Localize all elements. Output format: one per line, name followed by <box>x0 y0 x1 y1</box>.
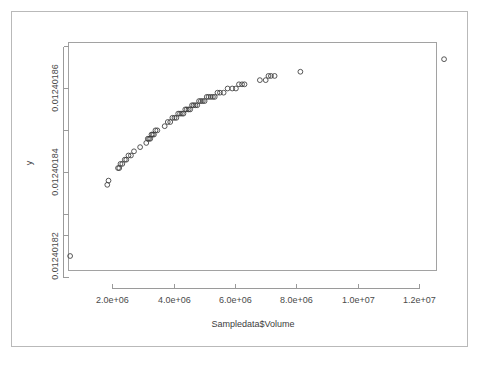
screenshot-root: 0.01240186 0.01240184 0.01240182 y 2.0e+… <box>0 0 479 365</box>
x-tick-label-1: 4.0e+06 <box>158 295 191 305</box>
y-axis-title: y <box>24 160 34 165</box>
data-point <box>138 145 143 150</box>
x-tick-label-2: 6.0e+06 <box>219 295 252 305</box>
x-tick-label-0: 2.0e+06 <box>96 295 129 305</box>
x-tick-label-5: 1.2e+07 <box>403 295 436 305</box>
y-tick-label-1: 0.01240184 <box>50 148 60 196</box>
data-point <box>225 86 230 91</box>
scatter-plot: 0.01240186 0.01240184 0.01240182 y 2.0e+… <box>0 0 479 365</box>
y-tick-label-0: 0.01240186 <box>50 64 60 112</box>
y-axis: 0.01240186 0.01240184 0.01240182 y <box>24 47 69 280</box>
x-axis: 2.0e+06 4.0e+06 6.0e+06 8.0e+06 1.0e+07 … <box>96 284 436 330</box>
data-point <box>162 124 167 129</box>
data-points-layer <box>68 57 447 259</box>
data-point <box>257 78 262 83</box>
y-tick-label-2: 0.01240182 <box>50 232 60 280</box>
plot-panel-box <box>69 43 437 271</box>
x-tick-label-3: 8.0e+06 <box>280 295 313 305</box>
data-point <box>298 69 303 74</box>
y-axis-tick-marks <box>64 47 69 278</box>
x-axis-title: Sampledata$Volume <box>211 319 294 329</box>
x-tick-label-4: 1.0e+07 <box>342 295 375 305</box>
x-axis-tick-marks <box>113 284 420 289</box>
data-point <box>132 149 137 154</box>
data-point <box>442 57 447 62</box>
